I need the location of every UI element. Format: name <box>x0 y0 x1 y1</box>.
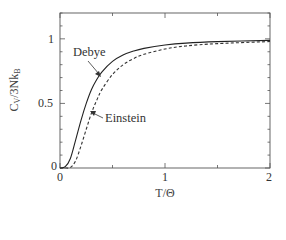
annotation-einstein: Einstein <box>105 111 146 126</box>
y-tick-0.5: 0.5 <box>38 97 53 109</box>
x-tick-2: 2 <box>266 171 272 183</box>
x-tick-0: 0 <box>57 171 63 183</box>
y-label-mid: /3Nk <box>7 74 21 98</box>
einstein-arrow <box>90 111 103 118</box>
x-tick-1: 1 <box>162 171 168 183</box>
y-label-sub-b: B <box>13 68 22 73</box>
y-axis-label: CV/3NkB <box>7 68 22 111</box>
y-tick-1: 1 <box>48 33 54 45</box>
debye-arrow <box>88 61 101 77</box>
x-axis-label: T/Θ <box>155 186 174 201</box>
y-label-sub-v: V <box>13 98 22 104</box>
einstein-curve <box>60 42 270 169</box>
y-label-main: C <box>7 104 21 112</box>
annotation-debye: Debye <box>73 45 106 60</box>
